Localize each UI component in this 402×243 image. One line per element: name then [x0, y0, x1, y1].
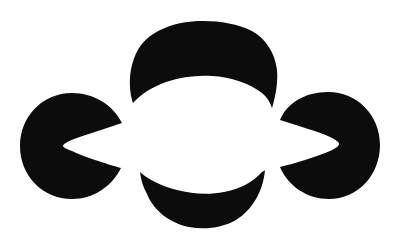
figure-svg: [0, 0, 402, 243]
illusory-contour-figure: [0, 0, 402, 243]
